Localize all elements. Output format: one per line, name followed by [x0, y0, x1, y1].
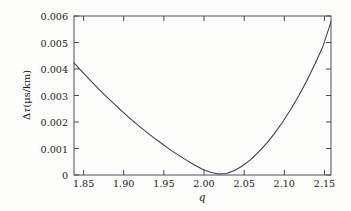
y-axis-title-units: (μs/km)	[21, 70, 32, 108]
xtick-label-1.95: 1.95	[153, 178, 174, 189]
ytick-label-0.001: 0.001	[22, 143, 68, 154]
xtick-label-2.05: 2.05	[234, 178, 255, 189]
xtick-label-2.15: 2.15	[314, 178, 335, 189]
plot-frame	[74, 16, 331, 175]
data-curve-delta-tau	[74, 22, 331, 174]
y-axis-title: Δτ(μs/km)	[21, 70, 32, 120]
ytick-label-0: 0	[22, 170, 68, 181]
x-axis-ticks	[84, 16, 325, 175]
y-axis-title-tau: τ	[21, 108, 32, 113]
xtick-label-2.00: 2.00	[193, 178, 214, 189]
ytick-label-0.006: 0.006	[22, 11, 68, 22]
ytick-label-0.005: 0.005	[22, 37, 68, 48]
xtick-label-1.85: 1.85	[73, 178, 94, 189]
y-axis-title-delta: Δ	[21, 113, 32, 120]
xtick-label-1.90: 1.90	[113, 178, 134, 189]
figure-container: 0.006 0.005 0.004 0.003 0.002 0.001 0 1.…	[0, 0, 351, 211]
xtick-label-2.10: 2.10	[274, 178, 295, 189]
y-axis-ticks	[74, 16, 331, 175]
x-axis-title: q	[199, 191, 206, 203]
